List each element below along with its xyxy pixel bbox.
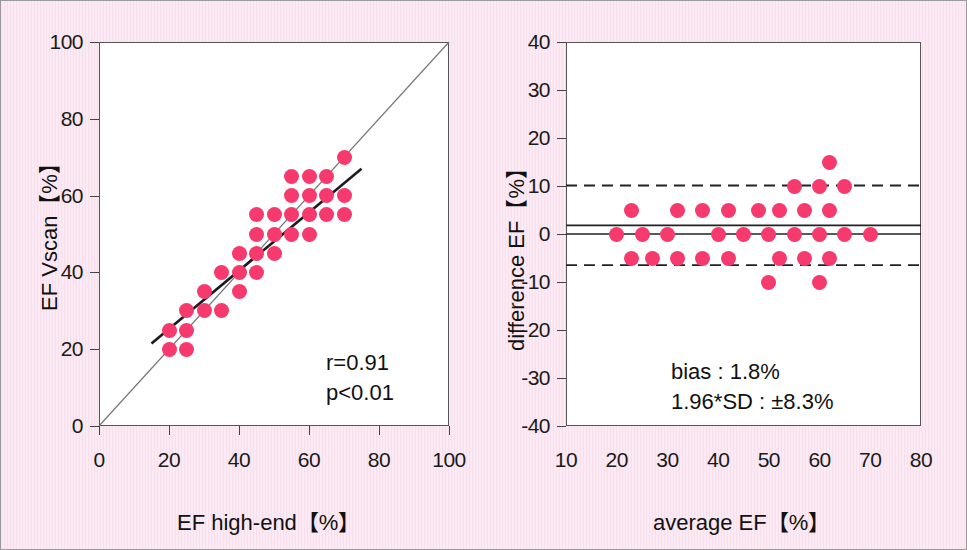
right-y-tick-label: 10 (528, 174, 550, 198)
right-y-tick (557, 138, 566, 139)
right-y-tick-label: -30 (521, 366, 550, 390)
right-data-point (822, 203, 837, 218)
right-y-tick-label: -40 (521, 414, 550, 438)
right-y-tick-label: 30 (528, 78, 550, 102)
right-data-point (797, 251, 812, 266)
right-data-point (761, 275, 776, 290)
right-statistics-annotation: bias : 1.8% 1.96*SD : ±8.3% (671, 357, 834, 416)
right-data-point (812, 275, 827, 290)
right-y-tick (557, 330, 566, 331)
right-x-tick-label: 30 (656, 448, 678, 472)
right-y-tick (557, 90, 566, 91)
right-data-point (863, 227, 878, 242)
right-data-point (670, 251, 685, 266)
bias-text: bias : 1.8% (671, 357, 834, 387)
right-data-point (721, 203, 736, 218)
right-data-point (751, 203, 766, 218)
right-y-tick-label: 40 (528, 30, 550, 54)
right-data-point (660, 227, 675, 242)
right-data-point (624, 203, 639, 218)
right-data-point (609, 227, 624, 242)
right-x-tick-label: 20 (606, 448, 628, 472)
right-x-tick-label: 80 (910, 448, 932, 472)
right-y-tick (557, 378, 566, 379)
right-data-point (837, 179, 852, 194)
right-y-tick (557, 282, 566, 283)
sd-text: 1.96*SD : ±8.3% (671, 387, 834, 417)
right-y-tick (557, 42, 566, 43)
right-data-point (761, 227, 776, 242)
figure-container: 020406080100020406080100 EF Vscan【%】 EF … (0, 0, 967, 550)
right-y-tick-label: 20 (528, 126, 550, 150)
right-x-axis-title: average EF【%】 (653, 504, 830, 536)
right-data-point (635, 227, 650, 242)
right-data-point (624, 251, 639, 266)
right-data-point (812, 179, 827, 194)
right-data-point (721, 251, 736, 266)
right-y-tick (557, 426, 566, 427)
right-x-tick-label: 50 (758, 448, 780, 472)
right-data-point (822, 251, 837, 266)
right-data-point (736, 227, 751, 242)
right-data-point (787, 179, 802, 194)
right-y-axis-title: difference EF【%】 (498, 157, 530, 351)
right-data-point (772, 251, 787, 266)
right-x-tick-label: 60 (808, 448, 830, 472)
right-data-point (772, 203, 787, 218)
right-data-point (711, 227, 726, 242)
right-x-tick-label: 40 (707, 448, 729, 472)
right-data-point (812, 227, 827, 242)
right-x-tick-label: 70 (859, 448, 881, 472)
right-y-tick-label: 0 (539, 222, 550, 246)
right-data-point (837, 227, 852, 242)
right-panel-bland-altman: -40-30-20-100102030401020304050607080 di… (1, 1, 966, 549)
right-x-tick-label: 10 (555, 448, 577, 472)
right-data-point (670, 203, 685, 218)
right-data-point (787, 227, 802, 242)
right-y-tick (557, 234, 566, 235)
right-data-point (695, 203, 710, 218)
right-data-point (645, 251, 660, 266)
right-data-point (822, 155, 837, 170)
right-data-point (797, 203, 812, 218)
right-data-point (695, 251, 710, 266)
right-y-tick (557, 186, 566, 187)
